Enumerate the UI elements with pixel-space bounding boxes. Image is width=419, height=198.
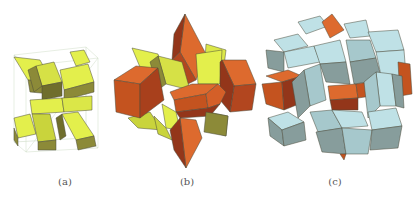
panel-a-figure: (a) — [0, 0, 120, 198]
x-cluster-illustration — [0, 0, 120, 170]
star-cluster-illustration — [110, 0, 260, 170]
caption-a: (a) — [45, 176, 85, 187]
caption-b: (b) — [167, 176, 207, 187]
panel-c-figure: (c) — [258, 0, 419, 198]
panel-b-figure: (b) — [110, 0, 260, 198]
caption-c: (c) — [315, 176, 355, 187]
enclosed-cluster-illustration — [258, 0, 419, 170]
